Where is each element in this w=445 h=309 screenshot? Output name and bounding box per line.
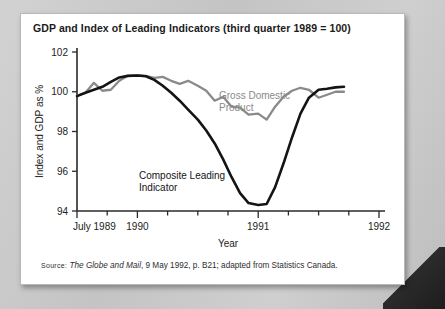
source-label: Source: [41, 262, 67, 269]
series-label-cli: Composite LeadingIndicator [139, 170, 225, 193]
source-details: , 9 May 1992, p. B21; adapted from Stati… [141, 261, 338, 270]
source-note: Source: The Globe and Mail, 9 May 1992, … [41, 261, 392, 271]
source-publication: The Globe and Mail [70, 261, 141, 270]
y-tick-label: 98 [57, 126, 69, 137]
chart-plot-area: 949698100102Index and GDP as %July 19891… [21, 14, 406, 262]
y-tick-label: 94 [57, 206, 69, 217]
x-tick-label: 1990 [126, 221, 149, 232]
x-tick-label: July 1989 [73, 221, 116, 232]
x-tick-label: 1991 [247, 221, 270, 232]
x-axis-title: Year [218, 238, 239, 249]
y-tick-label: 96 [57, 166, 69, 177]
y-tick-label: 102 [51, 47, 68, 58]
series-line-gdp [77, 75, 344, 119]
figure-card: GDP and Index of Leading Indicators (thi… [20, 13, 405, 285]
y-tick-label: 100 [51, 86, 68, 97]
y-axis-title: Index and GDP as % [34, 85, 45, 178]
x-tick-label: 1992 [368, 221, 391, 232]
line-chart: 949698100102Index and GDP as %July 19891… [21, 14, 406, 262]
